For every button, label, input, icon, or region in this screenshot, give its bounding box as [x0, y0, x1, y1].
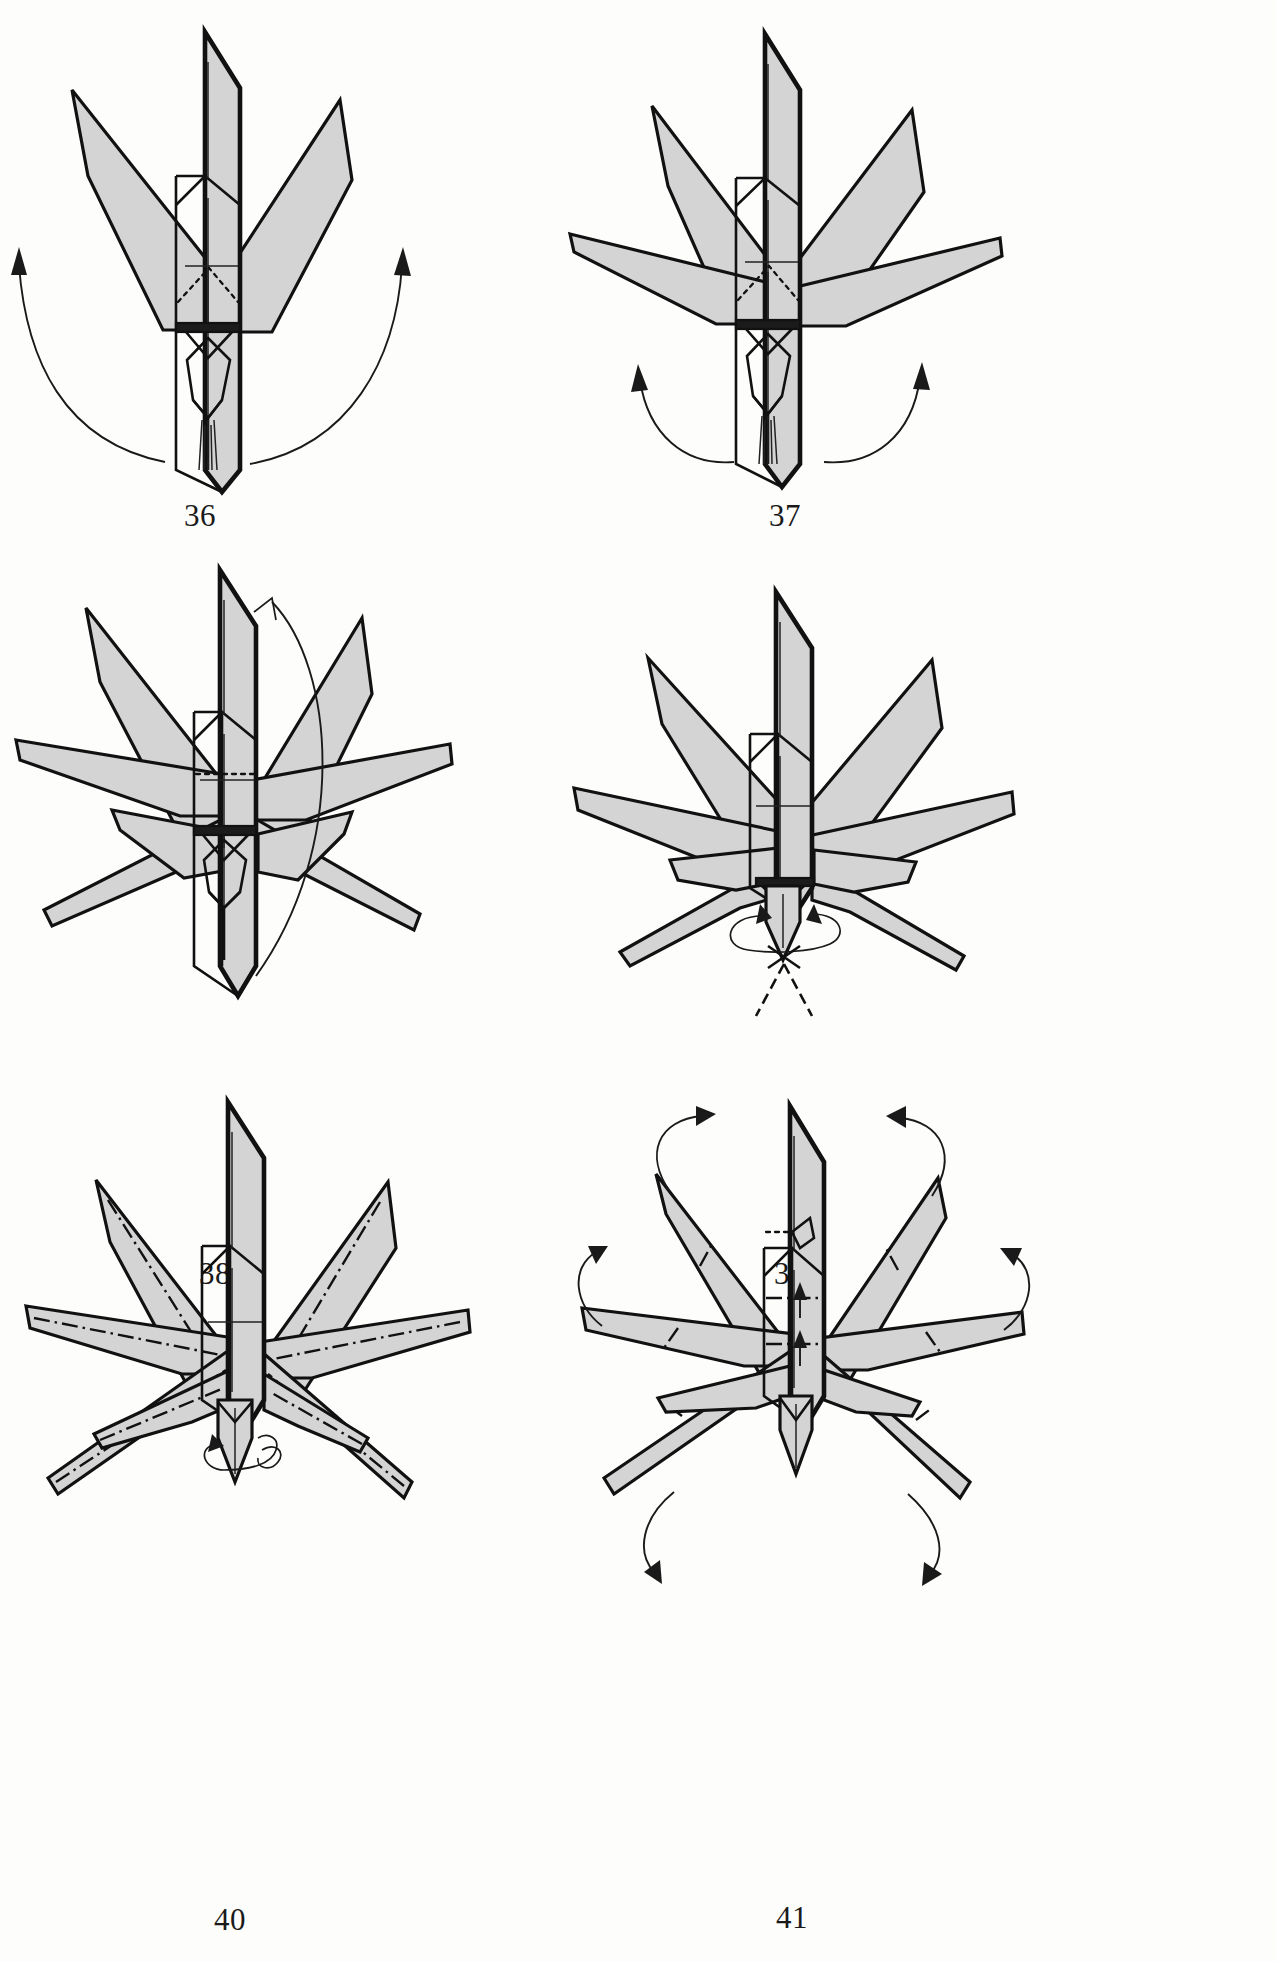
swing-right-arrow-line — [824, 378, 920, 462]
central-body — [228, 1102, 264, 1430]
figure-39-drawing — [560, 548, 1276, 1148]
figure-37-caption: 37 — [725, 498, 845, 534]
central-body — [790, 1106, 824, 1426]
central-body — [205, 32, 240, 492]
pleat-mark-lower-right — [916, 1408, 932, 1420]
diagram-page: 36 — [0, 0, 1276, 1962]
swing-upper-left-arrow-line — [657, 1116, 702, 1192]
figure-39: 39 — [560, 548, 1276, 1148]
point-inner-right — [264, 1374, 368, 1452]
swing-middle-right-arrow-head — [1000, 1248, 1022, 1266]
central-body — [776, 592, 812, 916]
point-inner-right — [824, 1370, 920, 1416]
swing-left-arrow-head — [631, 364, 648, 392]
figure-36: 36 — [0, 0, 638, 600]
swing-upper-right-arrow-head — [886, 1106, 906, 1128]
swing-lower-left-arrow-head — [644, 1560, 662, 1584]
figure-40: 40 — [0, 1082, 638, 1702]
figure-41-caption: 41 — [732, 1900, 852, 1936]
hidden-tail-dash-left — [756, 964, 784, 1016]
central-body — [220, 570, 256, 996]
figure-37-drawing — [560, 0, 1276, 600]
swing-left-arrow-line — [19, 265, 165, 462]
swing-upper-left-arrow-head — [696, 1106, 716, 1126]
swing-upper-right-arrow-line — [900, 1118, 945, 1196]
swing-lower-right-arrow-head — [922, 1562, 942, 1586]
point-right — [225, 100, 352, 332]
figure-41-drawing — [560, 1082, 1276, 1702]
point-inner-left — [658, 1366, 790, 1412]
swing-lower-left-arrow-line — [644, 1492, 674, 1572]
turn-over-arrow-head — [254, 598, 276, 620]
figure-37: 37 — [560, 0, 1276, 600]
point-left — [72, 90, 218, 330]
swing-left-arrow-head — [11, 247, 27, 275]
figure-40-caption: 40 — [170, 1902, 290, 1938]
figure-41: 41 — [560, 1082, 1276, 1702]
point-inner-left — [94, 1370, 230, 1448]
figure-38-drawing — [0, 548, 638, 1148]
swing-right-arrow-head — [394, 247, 411, 276]
base-dark-band — [736, 320, 800, 329]
base-dark-band — [194, 826, 256, 835]
hidden-tail-dash-right — [784, 964, 812, 1016]
figure-36-caption: 36 — [140, 498, 260, 534]
swing-right-arrow-head — [913, 362, 930, 390]
swing-lower-right-arrow-line — [908, 1494, 939, 1574]
figure-38: 38 — [0, 548, 638, 1148]
swing-left-arrow-line — [640, 380, 734, 462]
point-mid-left — [16, 740, 234, 816]
central-body — [765, 34, 800, 487]
figure-36-drawing — [0, 0, 638, 600]
base-dark-band — [176, 323, 240, 332]
figure-40-drawing — [0, 1082, 638, 1702]
